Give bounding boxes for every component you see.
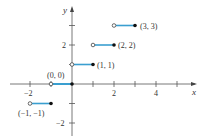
x-axis-label: x <box>191 87 196 97</box>
closed-dot-icon <box>49 102 53 106</box>
step-function-chart: −2 2 4 2 −2 x y (−1, −1) (0, 0) (1, 1) (… <box>0 0 208 139</box>
closed-dot-icon <box>112 43 116 47</box>
step-segments <box>32 26 135 104</box>
x-tick-label-m2: −2 <box>24 89 33 98</box>
x-axis-arrow-icon <box>191 82 197 86</box>
y-tick-label-m2: −2 <box>56 119 65 128</box>
point-label-1: (1, 1) <box>97 61 115 70</box>
open-dot-icon <box>70 63 74 67</box>
closed-dot-icon <box>70 82 74 86</box>
y-axis-label: y <box>62 5 67 15</box>
x-tick-label-4: 4 <box>154 89 158 98</box>
closed-dot-icon <box>133 24 137 28</box>
closed-endpoints <box>49 24 137 106</box>
y-tick-label-2: 2 <box>62 41 66 50</box>
open-dot-icon <box>112 24 116 28</box>
x-tick-label-2: 2 <box>112 89 116 98</box>
open-dot-icon <box>28 102 32 106</box>
point-label-m1: (−1, −1) <box>18 109 45 118</box>
point-label-0: (0, 0) <box>47 71 65 80</box>
point-label-3: (3, 3) <box>140 22 158 31</box>
open-dot-icon <box>91 43 95 47</box>
point-label-2: (2, 2) <box>118 41 136 50</box>
y-axis-arrow-icon <box>70 6 74 12</box>
open-dot-icon <box>49 82 53 86</box>
closed-dot-icon <box>91 63 95 67</box>
